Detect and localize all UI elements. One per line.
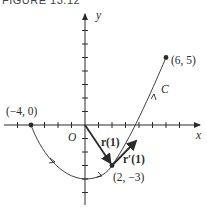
vector-r1-label: r(1) (101, 136, 120, 149)
figure: FIGURE 13.12 (0, 0, 207, 210)
vector-r-prime-1-label: r′(1) (123, 153, 145, 166)
y-axis-label: y (95, 9, 102, 22)
curve-label: C (161, 83, 169, 95)
figure-title: FIGURE 13.12 (2, 0, 80, 6)
curve-direction-arrow-icon (151, 94, 156, 100)
start-point (29, 123, 34, 128)
end-point (164, 55, 169, 60)
origin-label: O (68, 131, 77, 143)
start-point-label: (−4, 0) (6, 105, 38, 118)
end-point-label: (6, 5) (171, 54, 196, 67)
marked-point-label: (2, −3) (113, 171, 145, 184)
curve-c (31, 58, 166, 180)
marked-point (110, 163, 115, 168)
x-axis-label: x (195, 129, 202, 141)
curve-direction-arrow-icon (97, 172, 102, 177)
